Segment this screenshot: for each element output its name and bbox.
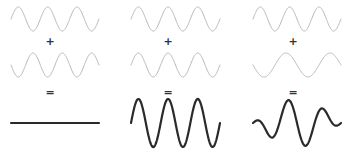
plus-sign-1: + <box>45 36 54 47</box>
input-wave-b-2 <box>131 53 220 77</box>
equals-sign-1: = <box>45 87 54 98</box>
input-wave-b-1 <box>11 53 99 77</box>
interference-diagram <box>0 0 350 154</box>
result-wave-3 <box>253 100 341 146</box>
input-wave-b-3 <box>253 53 341 77</box>
plus-sign-2: + <box>163 36 172 47</box>
plus-sign-3: + <box>288 36 297 47</box>
input-wave-a-2 <box>131 7 220 31</box>
equals-sign-3: = <box>288 87 297 98</box>
input-wave-a-1 <box>11 7 99 31</box>
result-wave-2 <box>131 99 220 147</box>
equals-sign-2: = <box>163 87 172 98</box>
input-wave-a-3 <box>253 7 341 31</box>
